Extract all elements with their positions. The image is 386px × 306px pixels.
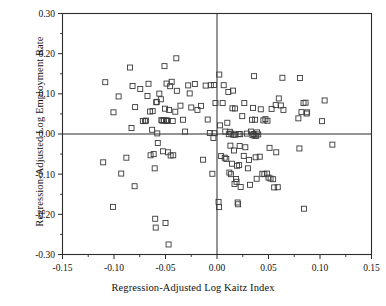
data-point-marker bbox=[208, 83, 213, 88]
data-point-marker bbox=[129, 125, 134, 130]
data-point-marker bbox=[138, 87, 143, 92]
data-point-marker bbox=[101, 160, 106, 165]
x-tick-label: 0.15 bbox=[363, 263, 380, 273]
data-point-marker bbox=[241, 153, 246, 158]
data-point-marker bbox=[124, 155, 129, 160]
data-point-marker bbox=[155, 131, 160, 136]
data-point-marker bbox=[201, 157, 206, 162]
data-point-marker bbox=[254, 176, 259, 181]
data-point-marker bbox=[157, 91, 162, 96]
data-point-marker bbox=[297, 146, 302, 151]
data-point-marker bbox=[210, 171, 215, 176]
data-point-marker bbox=[296, 116, 301, 121]
data-point-marker bbox=[253, 117, 258, 122]
data-point-marker bbox=[187, 91, 192, 96]
data-point-marker bbox=[272, 185, 277, 190]
data-point-marker bbox=[148, 153, 153, 158]
data-point-marker bbox=[228, 143, 233, 148]
data-point-marker bbox=[225, 120, 230, 125]
data-point-marker bbox=[280, 75, 285, 80]
data-point-marker bbox=[116, 94, 121, 99]
x-tick-label: -0.05 bbox=[156, 263, 176, 273]
data-point-marker bbox=[189, 105, 194, 110]
data-point-marker bbox=[227, 170, 232, 175]
data-point-marker bbox=[275, 185, 280, 190]
data-point-marker bbox=[274, 150, 279, 155]
data-point-marker bbox=[133, 105, 138, 110]
data-point-marker bbox=[228, 172, 233, 177]
data-point-marker bbox=[246, 157, 251, 162]
data-point-marker bbox=[183, 129, 188, 134]
data-point-marker bbox=[119, 171, 124, 176]
data-point-marker bbox=[174, 56, 179, 61]
data-point-marker bbox=[219, 154, 224, 159]
data-point-marker bbox=[162, 64, 167, 69]
data-point-marker bbox=[145, 94, 150, 99]
data-point-marker bbox=[330, 142, 335, 147]
data-point-marker bbox=[237, 144, 242, 149]
data-point-marker bbox=[111, 110, 116, 115]
data-point-marker bbox=[297, 75, 302, 80]
data-point-marker bbox=[231, 148, 236, 153]
data-point-marker bbox=[240, 114, 245, 119]
data-point-marker bbox=[151, 152, 156, 157]
data-point-marker bbox=[146, 81, 151, 86]
data-point-marker bbox=[251, 105, 256, 110]
data-point-marker bbox=[247, 182, 252, 187]
data-point-marker bbox=[155, 141, 160, 146]
data-point-marker bbox=[203, 83, 208, 88]
data-point-marker bbox=[238, 185, 243, 190]
x-tick-label: 0.10 bbox=[312, 263, 329, 273]
data-point-marker bbox=[173, 109, 178, 114]
data-point-marker bbox=[258, 107, 263, 112]
data-point-marker bbox=[192, 81, 197, 86]
data-point-marker bbox=[220, 101, 225, 106]
x-tick-label: -0.15 bbox=[53, 263, 73, 273]
data-point-marker bbox=[178, 103, 183, 108]
data-point-marker bbox=[322, 98, 327, 103]
plot-canvas: -0.15-0.10-0.050.000.050.100.150.300.200… bbox=[0, 0, 386, 306]
x-axis-title: Regression-Adjusted Log Kaitz Index bbox=[0, 282, 386, 293]
data-point-marker bbox=[211, 83, 216, 88]
data-point-marker bbox=[245, 166, 250, 171]
data-point-marker bbox=[166, 242, 171, 247]
data-point-marker bbox=[302, 206, 307, 211]
data-point-marker bbox=[174, 88, 179, 93]
data-point-marker bbox=[186, 83, 191, 88]
data-point-marker bbox=[153, 225, 158, 230]
x-tick-label: -0.10 bbox=[104, 263, 124, 273]
data-point-marker bbox=[276, 96, 281, 101]
data-point-marker bbox=[110, 204, 115, 209]
data-point-marker bbox=[242, 101, 247, 106]
data-point-marker bbox=[243, 145, 248, 150]
x-tick-label: 0.00 bbox=[209, 263, 226, 273]
data-point-marker bbox=[211, 136, 216, 141]
data-point-marker bbox=[217, 72, 222, 77]
data-point-marker bbox=[229, 161, 234, 166]
data-point-marker bbox=[267, 145, 272, 150]
data-point-marker bbox=[252, 74, 257, 79]
scatter-plot-figure: -0.15-0.10-0.050.000.050.100.150.300.200… bbox=[0, 0, 386, 306]
data-point-marker bbox=[320, 119, 325, 124]
data-point-marker bbox=[299, 110, 304, 115]
data-point-marker bbox=[160, 149, 165, 154]
data-point-marker bbox=[221, 83, 226, 88]
y-axis-title: Regression-Adjusted Log Employment Rate bbox=[34, 7, 45, 257]
data-point-marker bbox=[181, 117, 186, 122]
data-point-marker bbox=[170, 118, 175, 123]
data-point-marker bbox=[153, 216, 158, 221]
data-point-marker bbox=[250, 117, 255, 122]
x-tick-label: 0.05 bbox=[260, 263, 277, 273]
data-point-marker bbox=[132, 184, 137, 189]
data-point-marker bbox=[218, 123, 223, 128]
data-point-marker bbox=[127, 65, 132, 70]
data-point-marker bbox=[152, 166, 157, 171]
data-point-marker bbox=[103, 80, 108, 85]
data-point-marker bbox=[130, 84, 135, 89]
data-point-marker bbox=[163, 220, 168, 225]
data-point-marker bbox=[150, 127, 155, 132]
data-point-marker bbox=[205, 117, 210, 122]
